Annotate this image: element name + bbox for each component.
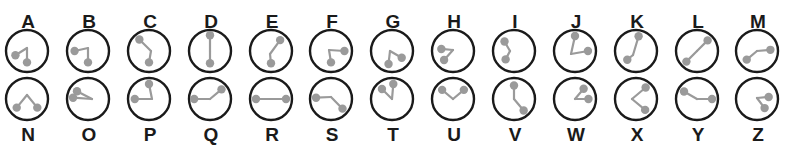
dial-knob-icon	[519, 106, 527, 114]
dial-knob-icon	[398, 54, 406, 62]
dial-knob-icon	[501, 55, 509, 63]
glyph-u: U	[432, 78, 474, 145]
dial-knob-icon	[708, 95, 716, 103]
dial-knob-icon	[11, 51, 19, 59]
glyph-label-s: S	[326, 124, 339, 145]
glyph-label-q: Q	[204, 124, 219, 145]
glyph-s: S	[310, 78, 352, 145]
glyph-d: D	[189, 11, 231, 72]
dial-knob-icon	[682, 57, 690, 65]
dial-knob-icon	[460, 86, 468, 94]
glyph-f: F	[310, 11, 352, 72]
dial-knob-icon	[338, 104, 346, 112]
dial-knob-icon	[766, 46, 774, 54]
dial-knob-icon	[680, 87, 688, 95]
dial-knob-icon	[623, 56, 631, 64]
dial-knob-icon	[440, 56, 448, 64]
dial-knob-icon	[389, 80, 397, 88]
glyph-b: B	[67, 11, 109, 72]
glyph-label-p: P	[144, 124, 157, 145]
glyph-c: C	[128, 11, 170, 72]
glyph-k: K	[615, 11, 657, 72]
dial-knob-icon	[743, 55, 751, 63]
dial-knob-icon	[267, 59, 275, 67]
dial-knob-icon	[641, 83, 649, 91]
dial-ring-icon	[493, 30, 535, 72]
dial-knob-icon	[282, 95, 290, 103]
bottom-row-glyphs: NOPQRSTUVWXYZ	[6, 78, 778, 145]
glyph-label-n: N	[21, 124, 35, 145]
dial-knob-icon	[584, 95, 592, 103]
glyph-a: A	[6, 11, 48, 72]
dial-knob-icon	[634, 32, 642, 40]
glyph-label-y: Y	[692, 124, 705, 145]
dial-knob-icon	[217, 85, 225, 93]
glyph-label-x: X	[631, 124, 644, 145]
glyph-g: G	[371, 11, 413, 72]
glyph-t: T	[371, 78, 413, 145]
glyph-j: J	[554, 11, 596, 72]
glyph-label-o: O	[82, 124, 97, 145]
dial-knob-icon	[131, 95, 139, 103]
dial-knob-icon	[145, 58, 153, 66]
dial-knob-icon	[13, 103, 21, 111]
dial-knob-icon	[70, 47, 78, 55]
glyph-label-r: R	[265, 124, 279, 145]
dial-knob-icon	[84, 58, 92, 66]
glyph-z: Z	[736, 78, 778, 145]
dial-knob-icon	[23, 58, 31, 66]
dial-knob-icon	[190, 95, 198, 103]
dial-knob-icon	[584, 47, 592, 55]
dial-ring-icon	[615, 78, 657, 120]
dial-ring-icon	[6, 78, 48, 120]
dial-knob-icon	[252, 95, 260, 103]
dial-knob-icon	[206, 31, 214, 39]
glyph-r: R	[250, 78, 292, 145]
dial-knob-icon	[510, 81, 518, 89]
dial-knob-icon	[760, 104, 768, 112]
glyph-n: N	[6, 78, 48, 145]
dial-knob-icon	[384, 60, 392, 68]
dial-knob-icon	[327, 58, 335, 66]
glyph-label-z: Z	[752, 124, 764, 145]
dial-knob-icon	[340, 47, 348, 55]
dial-knob-icon	[206, 59, 214, 67]
glyph-o: O	[67, 78, 109, 145]
dial-knob-icon	[312, 93, 320, 101]
glyph-l: L	[676, 11, 718, 72]
glyph-label-v: V	[509, 124, 522, 145]
glyph-w: W	[554, 78, 596, 145]
dial-knob-icon	[33, 103, 41, 111]
dial-knob-icon	[703, 36, 711, 44]
dial-knob-icon	[571, 32, 579, 40]
glyph-q: Q	[189, 78, 231, 145]
dial-knob-icon	[135, 35, 143, 43]
glyph-p: P	[128, 78, 170, 145]
dial-knob-icon	[641, 106, 649, 114]
glyph-e: E	[250, 11, 292, 72]
dial-knob-icon	[764, 93, 772, 101]
glyph-h: H	[432, 11, 474, 72]
clock-alphabet-diagram: ABCDEFGHIJKLM NOPQRSTUVWXYZ	[0, 0, 785, 149]
dial-knob-icon	[276, 36, 284, 44]
dial-knob-icon	[145, 80, 153, 88]
dial-knob-icon	[69, 93, 77, 101]
glyph-i: I	[493, 11, 535, 72]
glyph-label-t: T	[387, 124, 399, 145]
glyph-y: Y	[676, 78, 718, 145]
dial-knob-icon	[500, 37, 508, 45]
glyph-label-u: U	[447, 124, 461, 145]
dial-knob-icon	[438, 86, 446, 94]
dial-knob-icon	[378, 85, 386, 93]
glyph-x: X	[615, 78, 657, 145]
dial-knob-icon	[579, 85, 587, 93]
dial-knob-icon	[437, 45, 445, 53]
glyph-m: M	[736, 11, 778, 72]
glyph-v: V	[493, 78, 535, 145]
top-row-glyphs: ABCDEFGHIJKLM	[6, 11, 778, 72]
glyph-label-w: W	[567, 124, 585, 145]
